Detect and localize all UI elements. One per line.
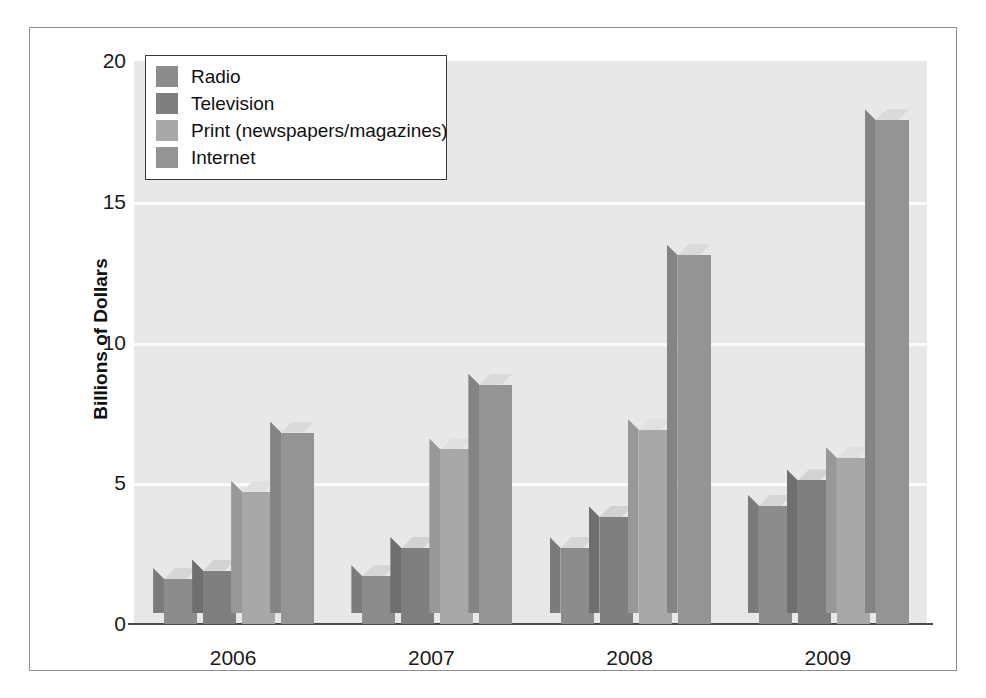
bar-side <box>787 469 798 613</box>
bar-face <box>876 120 909 624</box>
x-tick-label-2006: 2006 <box>134 646 332 676</box>
legend-item-label: Radio <box>191 66 241 88</box>
bar-side <box>667 244 678 613</box>
legend: RadioTelevisionPrint (newspapers/magazin… <box>145 55 447 180</box>
bar-side <box>351 565 362 613</box>
legend-swatch-icon <box>156 66 178 87</box>
legend-item-television[interactable]: Television <box>156 90 436 117</box>
legend-item-internet[interactable]: Internet <box>156 144 436 171</box>
legend-swatch-icon <box>156 93 178 114</box>
x-axis-ticks: 2006200720082009 <box>134 646 927 676</box>
bar-2009-internet <box>876 120 909 624</box>
bar-side <box>628 419 639 613</box>
bar-top <box>281 422 314 433</box>
legend-item-radio[interactable]: Radio <box>156 63 436 90</box>
bar-face <box>678 255 711 624</box>
bar-side <box>429 438 440 613</box>
legend-item-print[interactable]: Print (newspapers/magazines) <box>156 117 436 144</box>
bar-side <box>865 109 876 613</box>
bar-side <box>589 506 600 613</box>
legend-swatch-icon <box>156 120 178 141</box>
bar-side <box>468 374 479 613</box>
bar-face <box>281 433 314 624</box>
y-tick-label-20: 20 <box>80 49 126 73</box>
bar-side <box>550 537 561 613</box>
bar-side <box>192 560 203 613</box>
top-caption <box>0 0 986 12</box>
bar-top <box>479 374 512 385</box>
legend-item-label: Television <box>191 93 274 115</box>
y-tick-label-5: 5 <box>80 471 126 495</box>
legend-swatch-icon <box>156 147 178 168</box>
x-tick-label-2009: 2009 <box>729 646 927 676</box>
figure-frame: 20151050 Billions of Dollars 20062007200… <box>29 27 957 671</box>
bar-side <box>270 422 281 613</box>
x-tick-label-2007: 2007 <box>332 646 530 676</box>
bar-group-2009 <box>729 61 927 624</box>
bar-side <box>153 568 164 613</box>
bar-side <box>748 495 759 613</box>
bar-side <box>231 481 242 613</box>
bar-side <box>390 537 401 613</box>
bar-2007-internet <box>479 385 512 624</box>
y-tick-label-0: 0 <box>80 612 126 636</box>
bar-face <box>479 385 512 624</box>
bar-2008-internet <box>678 255 711 624</box>
bar-group-2008 <box>531 61 729 624</box>
bar-2006-internet <box>281 433 314 624</box>
bar-top <box>876 109 909 120</box>
y-axis-label: Billions of Dollars <box>90 258 112 420</box>
legend-item-label: Internet <box>191 147 255 169</box>
y-tick-label-15: 15 <box>80 190 126 214</box>
bar-top <box>678 244 711 255</box>
x-tick-label-2008: 2008 <box>531 646 729 676</box>
legend-item-label: Print (newspapers/magazines) <box>191 120 448 142</box>
bar-side <box>826 447 837 613</box>
